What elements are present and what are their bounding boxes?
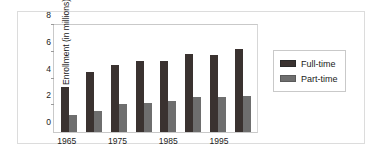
y-tick-label: 4 xyxy=(46,64,51,74)
x-tick-label: 1975 xyxy=(108,136,127,146)
bar-part-time xyxy=(69,115,77,132)
chart-figure: Enrollment (in millions) 02468 196519751… xyxy=(17,11,365,144)
y-tick-label: 0 xyxy=(46,117,51,127)
bar-part-time xyxy=(218,97,226,132)
bar-group xyxy=(61,25,77,132)
x-tick-label: 1995 xyxy=(209,136,228,146)
legend-label-part-time: Part-time xyxy=(301,74,338,84)
bar-series-container xyxy=(54,25,257,132)
y-tick-label: 6 xyxy=(46,37,51,47)
bar-part-time xyxy=(144,103,152,132)
legend-swatch-full-time-icon xyxy=(280,60,296,67)
bar-full-time xyxy=(160,61,168,132)
bar-group xyxy=(160,25,176,132)
bar-group xyxy=(210,25,226,132)
bar-full-time xyxy=(235,49,243,132)
bar-full-time xyxy=(86,72,94,132)
y-tick-label: 2 xyxy=(46,90,51,100)
bar-full-time xyxy=(185,54,193,132)
bar-part-time xyxy=(168,101,176,132)
bar-full-time xyxy=(111,65,119,132)
bar-part-time xyxy=(193,97,201,132)
legend-swatch-part-time-icon xyxy=(280,75,296,82)
bar-group xyxy=(185,25,201,132)
bar-group xyxy=(235,25,251,132)
bar-group xyxy=(86,25,102,132)
plot-area: Enrollment (in millions) 02468 196519751… xyxy=(53,24,258,133)
legend-item-full-time: Full-time xyxy=(280,56,338,71)
legend-item-part-time: Part-time xyxy=(280,71,338,86)
bar-full-time xyxy=(136,61,144,132)
bar-part-time xyxy=(94,111,102,132)
bar-full-time xyxy=(61,87,69,132)
legend-label-full-time: Full-time xyxy=(301,59,336,69)
bar-group xyxy=(136,25,152,132)
x-tick-label: 1985 xyxy=(159,136,178,146)
chart-legend: Full-time Part-time xyxy=(273,50,346,92)
bar-part-time xyxy=(119,104,127,132)
bar-full-time xyxy=(210,55,218,132)
bar-part-time xyxy=(243,96,251,132)
bar-group xyxy=(111,25,127,132)
y-tick-label: 8 xyxy=(46,10,51,20)
x-tick-label: 1965 xyxy=(57,136,76,146)
